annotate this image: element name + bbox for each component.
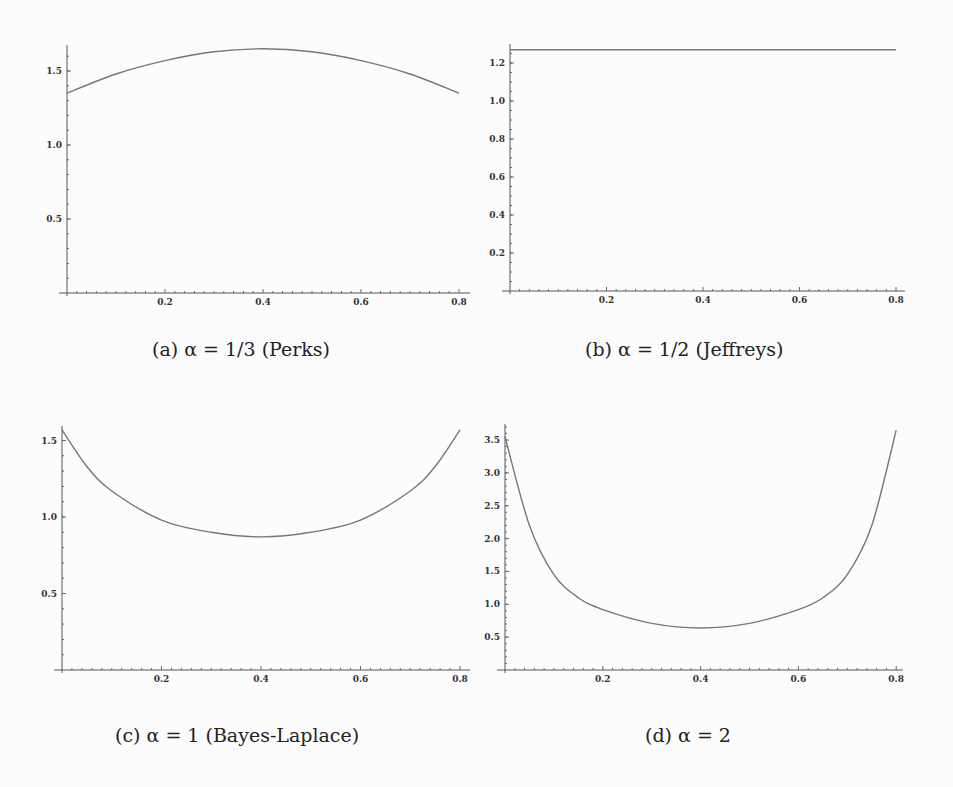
y-tick-label: 0.2	[489, 248, 505, 258]
x-tick-label: 0.6	[353, 297, 369, 307]
caption-d: (d) α = 2	[645, 724, 731, 746]
x-tick-label: 0.6	[353, 674, 369, 684]
y-tick-label: 1.2	[489, 58, 505, 68]
y-tick-label: 0.8	[489, 134, 505, 144]
y-tick-label: 1.5	[484, 566, 500, 576]
y-tick-label: 1.0	[484, 599, 500, 609]
y-tick-label: 0.5	[41, 589, 57, 599]
x-tick-label: 0.2	[599, 295, 615, 305]
x-tick-label: 0.8	[451, 297, 467, 307]
caption-c: (c) α = 1 (Bayes-Laplace)	[115, 724, 359, 746]
caption-a: (a) α = 1/3 (Perks)	[152, 338, 330, 360]
figure-plots: 0.20.40.60.80.51.01.5 0.20.40.60.80.20.4…	[0, 0, 953, 787]
x-tick-label: 0.8	[888, 674, 904, 684]
data-curve	[67, 49, 459, 93]
x-tick-label: 0.6	[791, 674, 807, 684]
x-tick-label: 0.8	[452, 674, 468, 684]
x-tick-label: 0.6	[792, 295, 808, 305]
x-tick-label: 0.8	[888, 295, 904, 305]
y-tick-label: 2.5	[484, 501, 500, 511]
plot-c: 0.20.40.60.80.51.01.5	[41, 426, 470, 684]
y-tick-label: 1.0	[41, 512, 57, 522]
data-curve	[505, 430, 896, 628]
plot-a: 0.20.40.60.80.51.01.5	[46, 45, 470, 307]
caption-b: (b) α = 1/2 (Jeffreys)	[585, 338, 783, 360]
plot-d: 0.20.40.60.80.51.01.52.02.53.03.5	[484, 424, 904, 684]
y-tick-label: 0.4	[489, 210, 505, 220]
x-tick-label: 0.4	[253, 674, 269, 684]
y-tick-label: 0.5	[46, 214, 62, 224]
x-tick-label: 0.4	[255, 297, 271, 307]
x-tick-label: 0.2	[157, 297, 173, 307]
y-tick-label: 1.0	[489, 96, 505, 106]
data-curve	[62, 430, 460, 537]
y-tick-label: 3.0	[484, 468, 500, 478]
y-tick-label: 1.0	[46, 140, 62, 150]
y-tick-label: 3.5	[484, 435, 500, 445]
y-tick-label: 2.0	[484, 534, 500, 544]
plot-b: 0.20.40.60.80.20.40.60.81.01.2	[489, 44, 905, 305]
x-tick-label: 0.4	[693, 674, 709, 684]
x-tick-label: 0.4	[695, 295, 711, 305]
y-tick-label: 1.5	[46, 66, 62, 76]
y-tick-label: 0.5	[484, 632, 500, 642]
x-tick-label: 0.2	[595, 674, 611, 684]
y-tick-label: 1.5	[41, 436, 57, 446]
y-tick-label: 0.6	[489, 172, 505, 182]
x-tick-label: 0.2	[154, 674, 170, 684]
